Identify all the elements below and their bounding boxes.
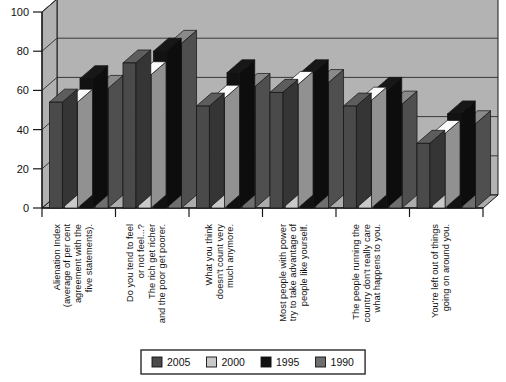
category-label-line: agreement with the (73, 224, 83, 303)
bar-side-face (298, 72, 313, 208)
category-label-line: try to take advantage of (288, 224, 298, 322)
category-label-line: or not feel...? (136, 224, 146, 278)
category-label-line: what happens to you. (372, 224, 382, 313)
category-label-line: going on around you. (441, 224, 451, 311)
legend-swatch (316, 357, 326, 367)
y-tick-label: 0 (23, 202, 29, 214)
category-label-line: much anymore. (225, 224, 235, 288)
bar-side-face (93, 66, 108, 208)
legend-swatch (207, 357, 217, 367)
category-label-line: five statements). (84, 224, 94, 292)
bar-side-face (372, 87, 387, 208)
bar-side-face (108, 75, 123, 208)
bar-front-face (417, 143, 430, 208)
bar-side-face (62, 89, 77, 208)
category-label-line: The people running the (351, 224, 361, 320)
bar-front-face (343, 106, 356, 208)
x-axis-categories: Alienation Index(average of per centagre… (42, 208, 483, 323)
bar-side-face (329, 70, 344, 208)
legend-label: 1995 (276, 356, 300, 368)
category-label-line: Do you tend to feel (125, 224, 135, 302)
legend-swatch (152, 357, 162, 367)
bar-side-face (151, 62, 166, 208)
category-label-line: and the poor get poorer. (157, 224, 167, 323)
legend-swatch (261, 357, 271, 367)
y-tick-label: 20 (17, 163, 29, 175)
bar-chart: 020406080100Alienation Index(average of … (0, 0, 506, 382)
bar-front-face (123, 63, 136, 208)
y-tick-label: 100 (11, 6, 29, 18)
y-tick-label: 80 (17, 45, 29, 57)
bar-side-face (460, 101, 475, 208)
bar (123, 50, 151, 208)
bar-side-face (445, 121, 460, 208)
legend-label: 2005 (167, 356, 191, 368)
bar-side-face (182, 30, 197, 208)
bar-side-face (387, 77, 402, 208)
bar (49, 89, 77, 208)
bar (196, 93, 224, 208)
bar-side-face (78, 89, 93, 208)
bar-side-face (283, 79, 298, 208)
category-label-line: The rich get richer (147, 224, 157, 299)
bar-side-face (356, 93, 371, 208)
category-label-line: What you think (204, 224, 214, 286)
category-label-line: Most people with power (278, 224, 288, 322)
bar-side-face (255, 73, 270, 208)
category-label-line: (average of per cent (62, 224, 72, 308)
legend: 2005200019951990 (141, 350, 365, 374)
category-label-line: You're left out of things (430, 224, 440, 318)
bar (417, 130, 445, 208)
bar-side-face (136, 50, 151, 208)
bar-front-face (270, 92, 283, 208)
chart-canvas: 020406080100Alienation Index(average of … (0, 0, 506, 382)
bar-side-face (166, 38, 181, 208)
bar (270, 79, 298, 208)
bar-side-face (313, 60, 328, 208)
category-label-line: people like yourself. (299, 224, 309, 306)
bar-side-face (209, 93, 224, 208)
bar-front-face (196, 106, 209, 208)
y-tick-label: 40 (17, 124, 29, 136)
y-tick-label: 60 (17, 84, 29, 96)
bar-front-face (49, 102, 62, 208)
bar-side-face (476, 111, 491, 208)
bar-side-face (240, 60, 255, 208)
bar (343, 93, 371, 208)
bar-side-face (402, 91, 417, 208)
legend-label: 1990 (331, 356, 355, 368)
category-label-line: doesn't count very (215, 224, 225, 300)
bar-side-face (430, 130, 445, 208)
category-label-line: country don't really care (362, 224, 372, 322)
y-axis-ticks: 020406080100 (11, 6, 42, 214)
category-label-line: Alienation Index (52, 224, 62, 291)
bar-side-face (225, 85, 240, 208)
legend-label: 2000 (222, 356, 246, 368)
